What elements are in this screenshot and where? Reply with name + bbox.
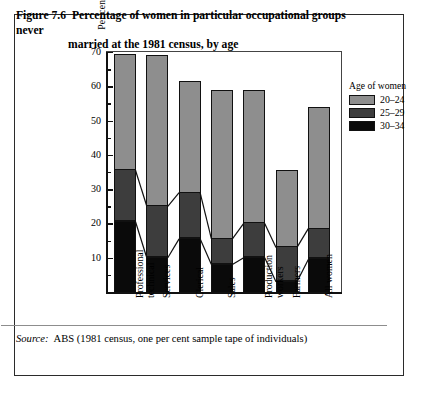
x-axis-label-line: Clerical bbox=[195, 267, 206, 298]
legend-swatch bbox=[349, 121, 375, 131]
x-axis-label: All women bbox=[324, 254, 335, 298]
legend-swatch bbox=[349, 108, 375, 118]
x-axis-label-line: Professional bbox=[135, 250, 146, 298]
source-text: ABS (1981 census, one per cent sample ta… bbox=[54, 333, 308, 344]
x-axis-label: Farmers bbox=[292, 266, 303, 298]
connector-30-34 bbox=[168, 239, 179, 258]
y-tick-label: 70 bbox=[57, 48, 108, 56]
legend-item[interactable]: 25–29 bbox=[349, 107, 432, 119]
source-divider bbox=[1, 325, 387, 326]
y-tick-label: 60 bbox=[57, 82, 108, 90]
legend-title: Age of women bbox=[349, 80, 432, 91]
x-axis-label: Productionworkers bbox=[264, 255, 285, 298]
y-tick-label: 30 bbox=[57, 185, 108, 193]
y-tick-label: 20 bbox=[57, 219, 108, 227]
source-note: Source:ABS (1981 census, one per cent sa… bbox=[16, 333, 307, 344]
legend: Age of women 20–2425–2930–34 bbox=[349, 80, 432, 133]
connector-25-29 bbox=[297, 229, 308, 248]
connector-30-34 bbox=[200, 239, 211, 265]
connector-25-29 bbox=[136, 170, 147, 206]
x-axis-label: Clerical bbox=[195, 267, 206, 298]
connector-25-29 bbox=[265, 223, 276, 247]
y-tick-label: 10 bbox=[57, 254, 108, 262]
figure-number: Figure 7.6 bbox=[16, 9, 66, 22]
x-axis-label-line: Farmers bbox=[292, 266, 303, 298]
x-axis-label: Professionaltechnical bbox=[135, 250, 156, 298]
connector-25-29 bbox=[200, 193, 211, 239]
legend-item[interactable]: 30–34 bbox=[349, 120, 432, 132]
x-axis-label-line: All women bbox=[324, 254, 335, 298]
x-axis-label: Services bbox=[162, 265, 173, 298]
figure-title: Figure 7.6Percentage of women in particu… bbox=[16, 9, 374, 53]
legend-items: 20–2425–2930–34 bbox=[349, 94, 432, 132]
legend-label: 30–34 bbox=[380, 120, 405, 131]
x-axis-label-line: technical bbox=[146, 250, 157, 298]
y-tick-label: 50 bbox=[57, 117, 108, 125]
legend-item[interactable]: 20–24 bbox=[349, 94, 432, 106]
y-tick-label: 40 bbox=[57, 151, 108, 159]
source-label: Source: bbox=[16, 333, 49, 344]
connector-25-29 bbox=[232, 223, 243, 238]
x-axis-label-line: Sales bbox=[227, 277, 238, 298]
connector-30-34 bbox=[232, 258, 243, 265]
x-axis-label: Sales bbox=[227, 277, 238, 298]
connector-25-29 bbox=[168, 193, 179, 207]
x-axis-label-line: Services bbox=[162, 265, 173, 298]
x-axis-label-line: workers bbox=[275, 255, 286, 298]
legend-label: 25–29 bbox=[380, 107, 405, 118]
plot-area: Per cent never married 70605040302010 Pr… bbox=[106, 52, 342, 294]
legend-label: 20–24 bbox=[380, 94, 405, 105]
legend-swatch bbox=[349, 95, 375, 105]
